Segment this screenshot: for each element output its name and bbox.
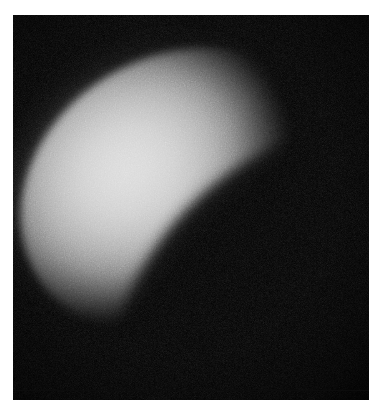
frame-seam-line: [13, 390, 369, 391]
image-viewer: Bright grainy gibbous-phase disc: [0, 0, 374, 417]
observation-frame: [13, 15, 369, 400]
